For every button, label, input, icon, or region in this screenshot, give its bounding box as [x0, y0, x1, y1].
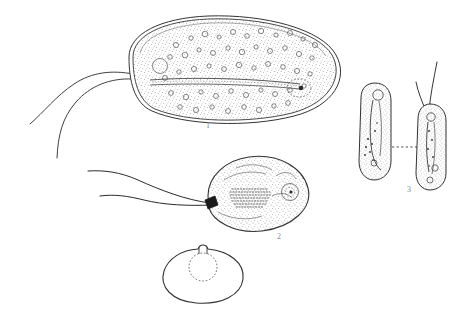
figure-1-label: 1: [206, 121, 210, 130]
figure-3-label: 3: [407, 185, 411, 194]
figure-2-label: 2: [277, 232, 281, 241]
illustration-plate: 1 2 3: [0, 0, 466, 319]
cyst-body: [163, 245, 243, 303]
rounded-cyst-drawing: [0, 0, 466, 319]
